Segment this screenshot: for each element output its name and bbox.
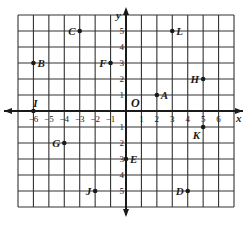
x-tick-label: −1: [106, 114, 116, 124]
x-tick-label: −5: [44, 114, 54, 124]
origin-label: O: [131, 96, 140, 110]
y-tick-label: 3: [120, 58, 125, 68]
point-label: C: [68, 25, 76, 37]
y-axis-label: y: [114, 9, 121, 21]
point-dot-icon: [108, 61, 113, 66]
x-axis-label: x: [235, 112, 242, 124]
point-label: A: [160, 89, 168, 101]
point-dot-icon: [62, 141, 67, 146]
x-axis-arrow-left-icon: [4, 108, 12, 114]
point-dot-icon: [155, 93, 160, 98]
point-label: L: [175, 25, 183, 37]
point-label: G: [52, 137, 60, 149]
x-tick-label: −2: [90, 114, 100, 124]
point-dot-icon: [124, 157, 129, 162]
point-label: H: [190, 73, 200, 85]
x-tick-label: −6: [29, 114, 39, 124]
point-label: J: [85, 185, 92, 197]
x-tick-label: 5: [201, 114, 206, 124]
y-tick-label: 1: [120, 122, 125, 132]
y-axis-arrow-up-icon: [123, 7, 129, 15]
point-dot-icon: [31, 109, 36, 114]
x-tick-label: −4: [59, 114, 69, 124]
point-dot-icon: [31, 61, 36, 66]
point-dot-icon: [93, 189, 98, 194]
coordinate-grid: −6−5−4−3−2−11234565432112345 ABCDEFGHIJK…: [0, 0, 247, 228]
x-tick-label: 2: [155, 114, 160, 124]
point-label: K: [192, 129, 201, 141]
point-dot-icon: [201, 77, 206, 82]
y-tick-label: 1: [120, 90, 125, 100]
point-label: E: [129, 153, 137, 165]
y-tick-label: 5: [120, 186, 125, 196]
x-tick-label: 3: [170, 114, 175, 124]
point-dot-icon: [170, 29, 175, 34]
y-tick-label: 5: [120, 26, 125, 36]
point-label: I: [32, 97, 38, 109]
point-dot-icon: [185, 189, 190, 194]
point-label: F: [98, 57, 107, 69]
y-tick-label: 4: [120, 170, 125, 180]
point-dot-icon: [77, 29, 82, 34]
x-tick-label: 6: [216, 114, 221, 124]
y-tick-label: 4: [120, 42, 125, 52]
point-label: D: [175, 185, 184, 197]
x-tick-label: −3: [75, 114, 85, 124]
y-tick-label: 2: [120, 74, 125, 84]
point-label: B: [36, 57, 44, 69]
y-tick-label: 2: [120, 138, 125, 148]
x-tick-label: 4: [185, 114, 190, 124]
x-tick-label: 1: [139, 114, 144, 124]
point-dot-icon: [201, 125, 206, 130]
y-axis-arrow-down-icon: [123, 209, 129, 217]
